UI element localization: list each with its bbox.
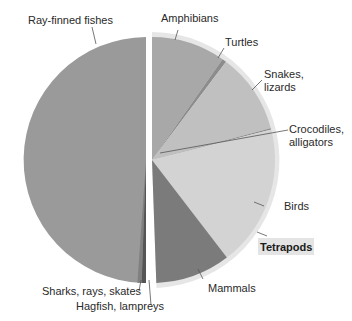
label-mammals: Mammals (208, 282, 256, 294)
label-snakes-1: Snakes, (264, 68, 304, 80)
label-ray-finned-fishes: Ray-finned fishes (28, 14, 113, 26)
slice-ray-finned-fishes (24, 37, 146, 283)
label-snakes-2: lizards (264, 81, 296, 93)
leader-ray-finned (92, 27, 96, 44)
label-birds: Birds (284, 200, 310, 212)
label-turtles: Turtles (225, 36, 259, 48)
label-hagfish: Hagfish, lampreys (76, 300, 165, 312)
pie-chart: Ray-finned fishes Amphibians Turtles Sna… (0, 0, 352, 321)
label-tetrapods: Tetrapods (260, 241, 312, 253)
label-amphibians: Amphibians (161, 12, 219, 24)
label-crocodiles-2: alligators (289, 136, 334, 148)
leader-tetrapods (257, 232, 267, 236)
label-sharks: Sharks, rays, skates (42, 285, 142, 297)
fish-group (24, 37, 146, 283)
label-crocodiles-1: Crocodiles, (289, 123, 344, 135)
